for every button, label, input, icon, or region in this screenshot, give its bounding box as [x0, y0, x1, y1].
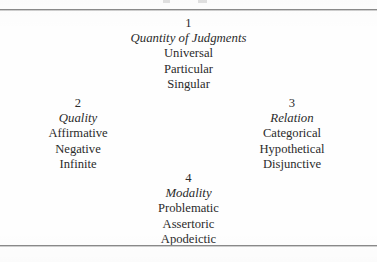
- judgment-group-quantity: 1 Quantity of Judgments Universal Partic…: [0, 16, 377, 92]
- group-category-label: Quality: [8, 111, 148, 126]
- group-item: Universal: [0, 46, 377, 61]
- group-item: Affirmative: [8, 126, 148, 141]
- group-item: Infinite: [8, 157, 148, 172]
- cropped-heading-remnant-left: [163, 0, 170, 3]
- group-item: Hypothetical: [222, 142, 362, 157]
- group-item: Negative: [8, 142, 148, 157]
- scanned-page: 1 Quantity of Judgments Universal Partic…: [0, 0, 377, 262]
- group-number: 4: [0, 171, 377, 186]
- group-number: 2: [8, 96, 148, 111]
- bottom-horizontal-rule: [0, 245, 377, 246]
- group-number: 3: [222, 96, 362, 111]
- top-horizontal-rule: [0, 9, 377, 10]
- group-category-label: Relation: [222, 111, 362, 126]
- group-item: Particular: [0, 62, 377, 77]
- group-item: Singular: [0, 77, 377, 92]
- group-item: Disjunctive: [222, 157, 362, 172]
- group-number: 1: [0, 16, 377, 31]
- group-category-label: Quantity of Judgments: [0, 31, 377, 46]
- group-item: Assertoric: [0, 217, 377, 232]
- group-item: Categorical: [222, 126, 362, 141]
- group-item: Problematic: [0, 201, 377, 216]
- judgment-group-modality: 4 Modality Problematic Assertoric Apodei…: [0, 171, 377, 247]
- group-category-label: Modality: [0, 186, 377, 201]
- judgment-group-relation: 3 Relation Categorical Hypothetical Disj…: [222, 96, 362, 172]
- judgment-group-quality: 2 Quality Affirmative Negative Infinite: [8, 96, 148, 172]
- cropped-heading-remnant-right: [198, 0, 207, 3]
